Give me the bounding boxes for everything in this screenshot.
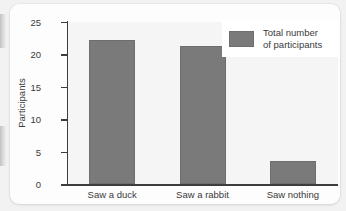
bar-saw-nothing — [270, 161, 316, 184]
legend-label-line-1: Total number — [263, 27, 322, 39]
bar-saw-a-duck — [89, 40, 135, 184]
legend-swatch-total-participants — [229, 31, 254, 47]
x-axis-label-saw-a-rabbit: Saw a rabbit — [176, 189, 229, 200]
x-axis-label-saw-a-duck: Saw a duck — [88, 189, 137, 200]
legend-label-total-participants: Total number of participants — [263, 27, 322, 51]
page-edge-artifact-top — [0, 14, 7, 48]
y-axis-title: Participants — [16, 78, 27, 128]
y-axis-tick-label-0: 0 — [15, 180, 41, 190]
bar-saw-a-rabbit — [180, 46, 226, 184]
y-axis-line — [67, 21, 69, 185]
x-axis-line — [67, 184, 338, 186]
y-axis-tick-label-20: 20 — [15, 50, 41, 60]
chart-figure-card: 0510152025 Participants Saw a duckSaw a … — [10, 4, 340, 204]
chart-legend: Total number of participants — [222, 20, 339, 57]
page-edge-artifact-middle — [0, 126, 7, 166]
y-axis-tick-label-25: 25 — [15, 17, 41, 27]
x-axis-label-saw-nothing: Saw nothing — [267, 189, 319, 200]
legend-label-line-2: of participants — [263, 39, 322, 51]
y-axis-tick-label-5: 5 — [15, 147, 41, 157]
